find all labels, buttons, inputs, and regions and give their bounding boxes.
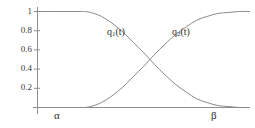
- x-tick-label-alpha: α: [54, 110, 60, 121]
- y-tick-label-0-4: 0.4: [10, 64, 32, 73]
- chart-figure: 1 0.8 0.6 0.4 0.2 α β q1(t) q2(t): [0, 0, 255, 128]
- curve-q2: [38, 11, 251, 107]
- curve-q1: [38, 11, 251, 107]
- curve-label-q1-suffix: (t): [116, 26, 125, 37]
- curve-label-q1: q1(t): [107, 27, 125, 38]
- y-tick-label-1: 1: [10, 7, 32, 16]
- y-tick-label-0-8: 0.8: [10, 26, 32, 35]
- x-tick-label-beta: β: [211, 110, 217, 121]
- curve-label-q2: q2(t): [172, 27, 190, 38]
- curve-label-q2-suffix: (t): [181, 26, 190, 37]
- y-tick-label-0-2: 0.2: [10, 83, 32, 92]
- y-tick-label-0-6: 0.6: [10, 45, 32, 54]
